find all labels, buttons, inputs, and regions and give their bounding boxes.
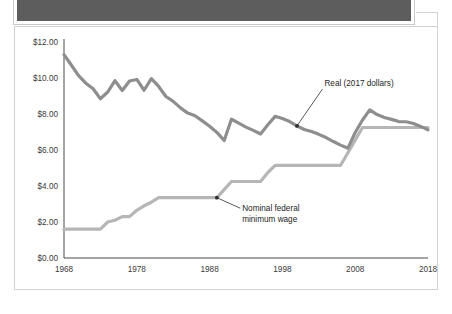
real-annotation-label: Real (2017 dollars) [324,79,393,88]
frame-top-connector [416,12,438,13]
y-axis-tick-label: $8.00 [38,110,59,119]
real-annotation-leader-line [297,89,322,126]
nominal-annotation-leader-line [217,198,240,209]
series-line-real [64,55,428,149]
nominal-annotation-point-marker [215,196,219,200]
nominal-annotation-label-line2: minimum wage [242,215,298,224]
series-line-nominal [64,128,428,230]
y-axis-tick-label: $0.00 [38,254,59,263]
y-axis-tick-labels: $0.00$2.00$4.00$6.00$8.00$10.00$12.00 [33,38,58,263]
minimum-wage-line-chart: $0.00$2.00$4.00$6.00$8.00$10.00$12.00 19… [14,26,438,290]
x-axis-tick-label: 2008 [346,265,365,274]
nominal-annotation-label-line1: Nominal federal [242,204,300,213]
top-banner [14,0,414,24]
real-annotation-point-marker [295,124,299,128]
x-axis-tick-label: 2018 [419,265,438,274]
real-series-annotation: Real (2017 dollars) [295,79,394,128]
chart-svg: $0.00$2.00$4.00$6.00$8.00$10.00$12.00 19… [14,26,438,290]
y-axis-tick-label: $12.00 [33,38,58,47]
x-axis-tick-label: 1998 [273,265,292,274]
x-axis-tick-labels: 196819781988199820082018 [55,265,438,274]
y-axis-tick-label: $6.00 [38,146,59,155]
x-axis-tick-label: 1988 [200,265,219,274]
nominal-series-annotation: Nominal federal minimum wage [215,196,300,224]
y-axis-tick-label: $2.00 [38,218,59,227]
x-axis-tick-label: 1978 [128,265,147,274]
y-axis-tick-label: $4.00 [38,182,59,191]
y-axis-tick-label: $10.00 [33,74,58,83]
x-axis-tick-label: 1968 [55,265,74,274]
